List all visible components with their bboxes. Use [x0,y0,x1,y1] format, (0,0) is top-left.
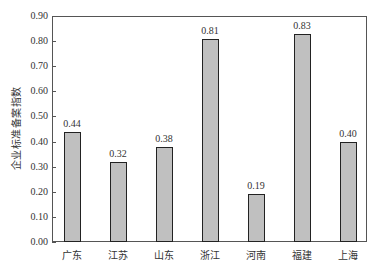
y-tick-label: 0.00 [18,236,48,247]
bar [156,147,173,242]
value-label: 0.44 [52,118,92,129]
y-tick-label: 0.20 [18,186,48,197]
y-tick-label: 0.10 [18,211,48,222]
x-tick-label: 江苏 [98,247,138,262]
bar [294,34,311,242]
value-label: 0.40 [328,128,368,139]
value-label: 0.32 [98,148,138,159]
y-tick [52,91,56,92]
bar [202,39,219,242]
x-tick-label: 浙江 [190,247,230,262]
y-tick-label: 0.40 [18,136,48,147]
x-tick-label: 山东 [144,247,184,262]
x-tick-label: 上海 [328,247,368,262]
y-tick [52,192,56,193]
y-tick-label: 0.90 [18,10,48,21]
y-tick [52,242,56,243]
y-tick-label: 0.80 [18,35,48,46]
x-tick-label: 河南 [236,247,276,262]
y-tick-label: 0.70 [18,60,48,71]
bar [64,132,81,242]
value-label: 0.83 [282,20,322,31]
y-tick [52,41,56,42]
bar [110,162,127,242]
y-tick [52,66,56,67]
y-tick [52,167,56,168]
bar-chart: 0.000.100.200.300.400.500.600.700.800.90… [0,0,380,267]
value-label: 0.81 [190,25,230,36]
x-tick-label: 福建 [282,247,322,262]
y-tick-label: 0.50 [18,110,48,121]
bar [340,142,357,242]
x-tick-label: 广东 [52,247,92,262]
y-tick [52,217,56,218]
value-label: 0.19 [236,180,276,191]
y-axis-title: 企业标准备案指数 [8,86,23,170]
y-tick [52,142,56,143]
bar [248,194,265,242]
y-tick [52,16,56,17]
y-tick-label: 0.60 [18,85,48,96]
value-label: 0.38 [144,133,184,144]
y-tick-label: 0.30 [18,161,48,172]
